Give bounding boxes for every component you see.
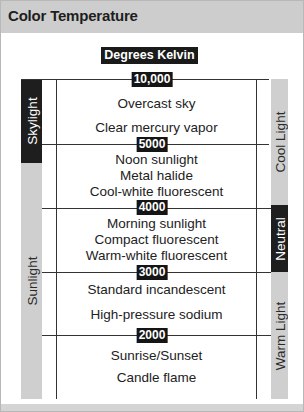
panel-header: Color Temperature [1,1,303,33]
panel-footer [1,404,303,411]
left-category-skylight: Skylight [21,79,42,163]
scale-right-line [256,79,257,399]
left-category-label: Sunlight [24,257,39,306]
right-category-label: Cool Light [272,112,287,173]
tick-10000: 10,000 [132,72,173,87]
left-category-label: Skylight [24,97,39,144]
tick-5000: 5000 [137,137,168,152]
right-category-neutral: Neutral [271,205,288,272]
band-source: Morning sunlight [57,215,256,232]
band-source: Clear mercury vapor [57,119,256,136]
band-source: High-pressure sodium [57,306,256,323]
band-source: Sunrise/Sunset [57,347,256,364]
tick-4000: 4000 [137,200,168,215]
band-source: Metal halide [57,167,256,184]
unit-label: Degrees Kelvin [101,47,198,64]
band-source: Compact fluorescent [57,231,256,248]
panel-title: Color Temperature [8,7,138,24]
right-category-label: Warm Light [272,301,287,370]
color-temperature-panel: Color Temperature Degrees Kelvin Skyligh… [0,0,304,412]
band-source: Cool-white fluorescent [57,183,256,200]
band-source: Warm-white fluorescent [57,247,256,264]
right-category-warm-light: Warm Light [271,272,288,399]
tick-3000: 3000 [137,265,168,280]
band-source: Candle flame [57,369,256,386]
left-category-sunlight: Sunlight [21,163,42,399]
right-category-label: Neutral [272,217,287,261]
band-source: Noon sunlight [57,151,256,168]
tick-2000: 2000 [137,328,168,343]
band-source: Overcast sky [57,95,256,112]
right-category-cool-light: Cool Light [271,79,288,205]
band-source: Standard incandescent [57,281,256,298]
